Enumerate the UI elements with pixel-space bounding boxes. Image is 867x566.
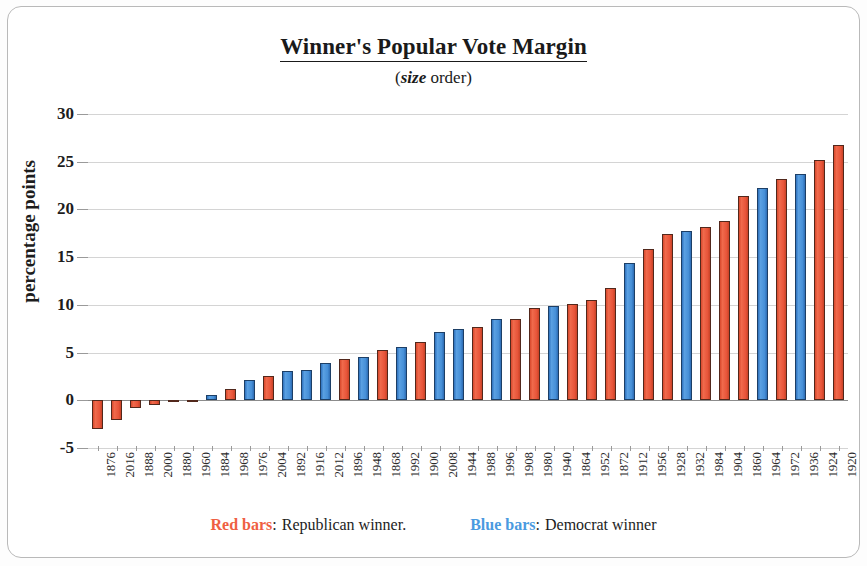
x-tick-mark-1960 (193, 446, 194, 451)
bar-1876 (92, 400, 103, 429)
x-tick-label-1916: 1916 (312, 452, 328, 478)
plot-area (88, 114, 848, 448)
x-tick-label-1904: 1904 (730, 452, 746, 478)
y-tick-label-0: 0 (26, 390, 74, 410)
x-tick-mark-1972 (782, 446, 783, 451)
x-tick-mark-1996 (497, 446, 498, 451)
y-tick-label-10: 10 (26, 295, 74, 315)
x-tick-mark-1896 (345, 446, 346, 451)
bar-2012 (320, 363, 331, 400)
y-tick-label-15: 15 (26, 247, 74, 267)
legend-text-republican: Republican winner. (282, 516, 406, 533)
bar-1984 (700, 227, 711, 401)
x-tick-label-1968: 1968 (236, 452, 252, 478)
x-tick-label-1960: 1960 (198, 452, 214, 478)
y-tick-mark-25 (77, 162, 88, 163)
bar-1924 (814, 160, 825, 400)
bar-1908 (510, 319, 521, 400)
x-tick-mark-2016 (117, 446, 118, 451)
y-tick-label-30: 30 (26, 104, 74, 124)
bar-1892 (282, 371, 293, 401)
x-tick-label-1920: 1920 (844, 452, 860, 478)
x-tick-mark-1892 (288, 446, 289, 451)
bar-1860 (738, 196, 749, 400)
bar-1992 (396, 347, 407, 400)
x-tick-mark-1916 (307, 446, 308, 451)
bar-1904 (719, 221, 730, 400)
x-tick-mark-1912 (630, 446, 631, 451)
x-tick-label-1924: 1924 (825, 452, 841, 478)
x-tick-mark-1976 (250, 446, 251, 451)
subtitle-emphasis: size (401, 68, 427, 87)
bar-1988 (472, 327, 483, 400)
x-tick-mark-1992 (402, 446, 403, 451)
gridline--5 (88, 448, 848, 449)
y-tick-mark-15 (77, 257, 88, 258)
bar-1888 (130, 400, 141, 408)
x-tick-label-1964: 1964 (768, 452, 784, 478)
y-tick-mark-0 (77, 400, 88, 401)
bars-layer (88, 114, 848, 448)
bar-1952 (586, 300, 597, 400)
x-tick-mark-1908 (516, 446, 517, 451)
x-tick-label-1896: 1896 (350, 452, 366, 478)
x-tick-mark-1956 (649, 446, 650, 451)
y-tick-mark-10 (77, 305, 88, 306)
subtitle-suffix: order) (426, 68, 472, 87)
bar-2004 (263, 376, 274, 400)
x-tick-label-2008: 2008 (445, 452, 461, 478)
x-tick-label-1972: 1972 (787, 452, 803, 478)
x-tick-mark-1904 (725, 446, 726, 451)
y-tick-mark--5 (77, 448, 88, 449)
x-tick-label-1940: 1940 (559, 452, 575, 478)
x-tick-mark-1864 (573, 446, 574, 451)
legend-item-democrat: Blue bars:Democrat winner (470, 516, 656, 534)
bar-1896 (339, 359, 350, 400)
x-tick-label-1948: 1948 (369, 452, 385, 478)
bar-1964 (757, 188, 768, 400)
bar-2008 (434, 332, 445, 401)
x-tick-mark-1924 (820, 446, 821, 451)
x-tick-label-1864: 1864 (578, 452, 594, 478)
bar-1980 (529, 308, 540, 401)
x-tick-mark-1968 (231, 446, 232, 451)
bar-1944 (453, 329, 464, 401)
legend-sep-blue: : (536, 516, 540, 533)
x-tick-mark-1876 (98, 446, 99, 451)
x-tick-label-1908: 1908 (521, 452, 537, 478)
x-tick-label-1872: 1872 (616, 452, 632, 478)
x-tick-label-1944: 1944 (464, 452, 480, 478)
x-tick-mark-1860 (744, 446, 745, 451)
x-tick-mark-1944 (459, 446, 460, 451)
bar-1932 (681, 231, 692, 400)
bar-1956 (643, 249, 654, 401)
bar-1976 (244, 380, 255, 400)
x-tick-mark-1952 (592, 446, 593, 451)
y-tick-label-20: 20 (26, 199, 74, 219)
chart-title: Winner's Popular Vote Margin (280, 34, 587, 62)
x-tick-label-1900: 1900 (426, 452, 442, 478)
x-tick-label-1936: 1936 (806, 452, 822, 478)
y-axis-label: percentage points (18, 160, 40, 303)
bar-1900 (415, 342, 426, 400)
x-tick-label-1884: 1884 (217, 452, 233, 478)
bar-2000 (149, 400, 160, 405)
x-tick-mark-2000 (155, 446, 156, 451)
bar-2016 (111, 400, 122, 420)
legend-key-red: Red bars (211, 516, 273, 533)
x-tick-mark-1884 (212, 446, 213, 451)
x-tick-label-1892: 1892 (293, 452, 309, 478)
legend-sep-red: : (272, 516, 276, 533)
y-tick-mark-5 (77, 353, 88, 354)
x-tick-mark-1948 (364, 446, 365, 451)
x-tick-mark-2004 (269, 446, 270, 451)
bar-1864 (567, 304, 578, 400)
x-tick-mark-1984 (706, 446, 707, 451)
x-tick-label-1992: 1992 (407, 452, 423, 478)
bar-1936 (795, 174, 806, 400)
bar-1884 (206, 395, 217, 401)
x-tick-label-2004: 2004 (274, 452, 290, 478)
x-tick-mark-1868 (383, 446, 384, 451)
bar-1996 (491, 319, 502, 400)
x-tick-label-1984: 1984 (711, 452, 727, 478)
